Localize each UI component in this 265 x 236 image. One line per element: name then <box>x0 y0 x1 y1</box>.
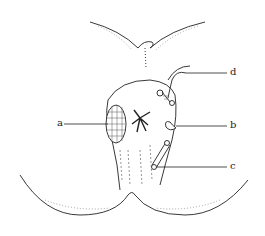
leader-lines <box>64 73 227 167</box>
anatomical-diagram <box>0 0 265 236</box>
label-a: a <box>57 118 63 128</box>
structure-c <box>152 141 171 170</box>
structure-a-hemorrhoid <box>106 105 126 143</box>
label-c: c <box>230 161 236 171</box>
lower-buttocks <box>20 175 248 215</box>
structure-d <box>157 66 190 106</box>
anal-orifice <box>132 110 150 132</box>
label-b: b <box>230 120 236 130</box>
upper-fold <box>90 22 205 68</box>
label-d: d <box>230 67 236 77</box>
